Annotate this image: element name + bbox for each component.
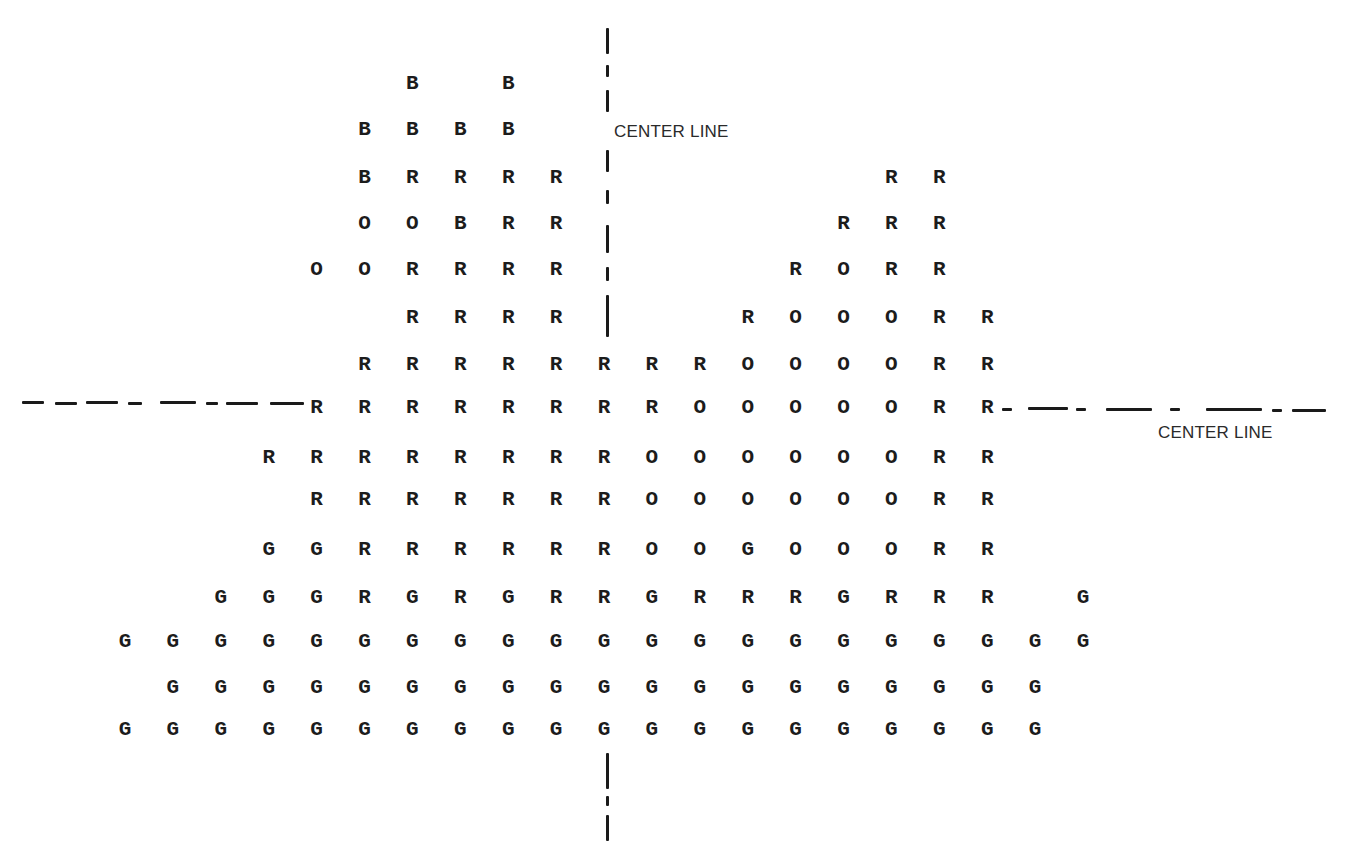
grid-cell-g: G [158, 628, 188, 656]
grid-cell-r: R [876, 584, 906, 612]
grid-cell-r: R [589, 444, 619, 472]
horizontal-center-line-segment [22, 401, 44, 404]
grid-cell-r: R [541, 256, 571, 284]
horizontal-center-line-segment [128, 402, 142, 405]
grid-cell-g: G [589, 674, 619, 702]
grid-cell-b: B [445, 116, 475, 144]
vertical-center-line-segment [606, 225, 609, 253]
grid-cell-r: R [493, 444, 523, 472]
grid-cell-r: R [924, 304, 954, 332]
grid-cell-g: G [302, 584, 332, 612]
vertical-center-line-segment [606, 28, 609, 54]
grid-cell-r: R [350, 486, 380, 514]
grid-cell-o: O [733, 351, 763, 379]
grid-cell-o: O [781, 394, 811, 422]
grid-cell-g: G [158, 716, 188, 744]
grid-cell-o: O [350, 256, 380, 284]
grid-cell-o: O [876, 486, 906, 514]
grid-cell-g: G [397, 716, 427, 744]
grid-cell-r: R [493, 210, 523, 238]
grid-cell-r: R [541, 536, 571, 564]
grid-cell-o: O [876, 444, 906, 472]
grid-cell-g: G [445, 716, 475, 744]
grid-cell-r: R [733, 304, 763, 332]
grid-cell-r: R [493, 164, 523, 192]
grid-cell-g: G [493, 584, 523, 612]
grid-cell-o: O [876, 304, 906, 332]
grid-cell-r: R [589, 486, 619, 514]
grid-cell-g: G [206, 716, 236, 744]
horizontal-center-line-segment [1272, 409, 1282, 412]
grid-cell-o: O [733, 486, 763, 514]
grid-cell-o: O [829, 394, 859, 422]
grid-cell-r: R [924, 486, 954, 514]
grid-cell-o: O [829, 351, 859, 379]
grid-cell-g: G [924, 628, 954, 656]
horizontal-center-line-segment [1106, 408, 1152, 411]
grid-cell-g: G [158, 674, 188, 702]
horizontal-center-line-segment [86, 401, 118, 404]
grid-cell-g: G [637, 628, 667, 656]
horizontal-center-line-segment [55, 402, 77, 405]
grid-cell-r: R [397, 444, 427, 472]
grid-cell-r: R [493, 536, 523, 564]
grid-cell-g: G [493, 716, 523, 744]
vertical-center-line-label: CENTER LINE [614, 122, 729, 142]
grid-cell-o: O [781, 304, 811, 332]
vertical-center-line-segment [606, 190, 609, 204]
grid-cell-g: G [924, 674, 954, 702]
diagram-canvas: CENTER LINE CENTER LINE BBBBBBBRRRRRROOB… [0, 0, 1347, 862]
grid-cell-r: R [445, 536, 475, 564]
grid-cell-o: O [781, 351, 811, 379]
grid-cell-o: O [685, 444, 715, 472]
grid-cell-r: R [541, 584, 571, 612]
grid-cell-r: R [445, 486, 475, 514]
horizontal-center-line-segment [270, 402, 304, 405]
grid-cell-g: G [1020, 628, 1050, 656]
grid-cell-g: G [685, 674, 715, 702]
grid-cell-r: R [924, 444, 954, 472]
grid-cell-g: G [254, 584, 284, 612]
grid-cell-r: R [589, 536, 619, 564]
grid-cell-r: R [493, 486, 523, 514]
grid-cell-o: O [829, 486, 859, 514]
grid-cell-g: G [637, 584, 667, 612]
grid-cell-r: R [445, 584, 475, 612]
vertical-center-line-segment [606, 150, 609, 172]
grid-cell-r: R [350, 351, 380, 379]
grid-cell-g: G [781, 628, 811, 656]
grid-cell-o: O [637, 536, 667, 564]
grid-cell-r: R [397, 304, 427, 332]
grid-cell-g: G [637, 716, 667, 744]
vertical-center-line-segment [606, 753, 609, 789]
grid-cell-r: R [924, 164, 954, 192]
grid-cell-r: R [445, 256, 475, 284]
grid-cell-o: O [829, 536, 859, 564]
grid-cell-r: R [589, 394, 619, 422]
grid-cell-o: O [302, 256, 332, 284]
grid-cell-b: B [350, 164, 380, 192]
grid-cell-r: R [972, 486, 1002, 514]
grid-cell-o: O [829, 444, 859, 472]
grid-cell-g: G [206, 584, 236, 612]
grid-cell-o: O [876, 394, 906, 422]
grid-cell-g: G [254, 628, 284, 656]
grid-cell-r: R [781, 256, 811, 284]
grid-cell-g: G [302, 716, 332, 744]
grid-cell-r: R [397, 486, 427, 514]
grid-cell-r: R [924, 351, 954, 379]
grid-cell-o: O [781, 536, 811, 564]
grid-cell-g: G [733, 536, 763, 564]
grid-cell-r: R [350, 584, 380, 612]
grid-cell-r: R [541, 486, 571, 514]
grid-cell-g: G [733, 716, 763, 744]
grid-cell-r: R [972, 444, 1002, 472]
grid-cell-r: R [254, 444, 284, 472]
grid-cell-g: G [829, 584, 859, 612]
grid-cell-g: G [493, 674, 523, 702]
grid-cell-r: R [972, 394, 1002, 422]
grid-cell-g: G [206, 628, 236, 656]
horizontal-center-line-segment [1170, 408, 1180, 411]
grid-cell-g: G [876, 674, 906, 702]
grid-cell-b: B [397, 70, 427, 98]
